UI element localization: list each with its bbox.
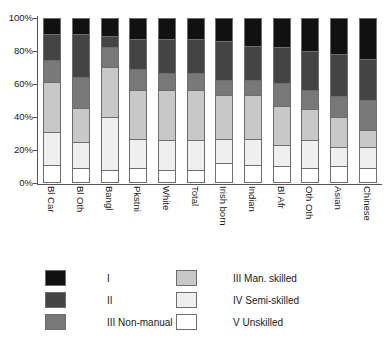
y-tick-mark bbox=[33, 18, 37, 19]
bar-segment bbox=[360, 148, 376, 169]
bar-segment bbox=[159, 40, 175, 74]
x-tick-label: Irish born bbox=[218, 186, 228, 226]
bar-segment bbox=[73, 35, 89, 77]
bar-segment bbox=[302, 52, 318, 91]
y-tick-mark bbox=[33, 150, 37, 151]
legend-swatch bbox=[45, 270, 66, 286]
bar-segment bbox=[331, 148, 347, 168]
bar-segment bbox=[188, 171, 204, 182]
x-tick-label: Bl Car bbox=[46, 186, 56, 212]
bar-segment bbox=[302, 19, 318, 52]
bar-segment bbox=[188, 74, 204, 90]
legend-item: V Unskilled bbox=[176, 314, 283, 330]
x-tick-label: Pkstni bbox=[132, 186, 142, 212]
bar-column bbox=[244, 18, 262, 183]
legend-label: IV Semi-skilled bbox=[233, 295, 299, 306]
stacked-bar bbox=[129, 18, 147, 183]
bar-segment bbox=[302, 141, 318, 169]
y-tick-label: 60% bbox=[14, 79, 33, 89]
stacked-bar bbox=[43, 18, 61, 183]
bar-segment bbox=[44, 133, 60, 166]
bar-column bbox=[129, 18, 147, 183]
bar-segment bbox=[159, 74, 175, 90]
bar-segment bbox=[130, 169, 146, 182]
x-tick-label: Oth Oth bbox=[304, 186, 314, 219]
legend-item: IV Semi-skilled bbox=[176, 292, 299, 308]
bar-segment bbox=[331, 19, 347, 55]
bar-segment bbox=[216, 19, 232, 42]
bar-segment bbox=[360, 19, 376, 60]
stacked-bar-chart: 0%20%40%60%80%100% Bl CarBl OthBanglPkst… bbox=[0, 0, 386, 338]
x-axis-labels: Bl CarBl OthBanglPkstniWhiteTotalIrish b… bbox=[38, 186, 382, 262]
bar-segment bbox=[331, 167, 347, 182]
x-tick-label: Total bbox=[190, 186, 200, 206]
legend-label: III Man. skilled bbox=[233, 273, 297, 284]
bar-column bbox=[301, 18, 319, 183]
y-tick-label: 0% bbox=[19, 178, 33, 188]
y-axis: 0%20%40%60%80%100% bbox=[0, 0, 36, 262]
bar-segment bbox=[159, 91, 175, 142]
bar-column bbox=[273, 18, 291, 183]
bar-segment bbox=[73, 109, 89, 143]
legend-swatch bbox=[176, 314, 197, 330]
y-tick-mark bbox=[33, 84, 37, 85]
stacked-bar bbox=[215, 18, 233, 183]
bar-segment bbox=[331, 118, 347, 147]
bar-segment bbox=[274, 19, 290, 48]
bar-segment bbox=[102, 118, 118, 170]
y-tick-label: 40% bbox=[14, 112, 33, 122]
bar-column bbox=[187, 18, 205, 183]
bar-segment bbox=[188, 141, 204, 170]
x-tick-label: Bl Afr bbox=[276, 186, 286, 209]
stacked-bar bbox=[187, 18, 205, 183]
legend-item: I bbox=[45, 270, 110, 286]
bar-segment bbox=[73, 78, 89, 109]
bar-segment bbox=[73, 169, 89, 182]
bar-segment bbox=[159, 141, 175, 170]
legend-label: II bbox=[107, 295, 113, 306]
stacked-bar bbox=[359, 18, 377, 183]
bars-container bbox=[38, 18, 382, 183]
bar-segment bbox=[302, 110, 318, 141]
bar-segment bbox=[102, 68, 118, 119]
bar-segment bbox=[159, 171, 175, 182]
bar-segment bbox=[44, 61, 60, 82]
x-tick-label: Bl Oth bbox=[75, 186, 85, 212]
stacked-bar bbox=[330, 18, 348, 183]
y-tick-mark bbox=[33, 183, 37, 184]
bar-segment bbox=[130, 19, 146, 40]
bar-segment bbox=[216, 140, 232, 164]
bar-segment bbox=[188, 19, 204, 40]
plot-area: 0%20%40%60%80%100% Bl CarBl OthBanglPkst… bbox=[0, 0, 386, 262]
legend-swatch bbox=[45, 314, 66, 330]
bar-segment bbox=[73, 143, 89, 169]
bar-segment bbox=[44, 83, 60, 134]
bar-segment bbox=[302, 169, 318, 182]
stacked-bar bbox=[301, 18, 319, 183]
bar-segment bbox=[360, 131, 376, 147]
bar-column bbox=[330, 18, 348, 183]
bar-segment bbox=[44, 166, 60, 182]
y-tick-label: 20% bbox=[14, 145, 33, 155]
bar-segment bbox=[188, 91, 204, 142]
bar-segment bbox=[130, 70, 146, 91]
y-tick-mark bbox=[33, 117, 37, 118]
bar-segment bbox=[274, 146, 290, 167]
legend-item: II bbox=[45, 292, 113, 308]
bar-column bbox=[359, 18, 377, 183]
bar-segment bbox=[216, 164, 232, 182]
legend-swatch bbox=[176, 292, 197, 308]
bar-segment bbox=[102, 48, 118, 68]
bar-segment bbox=[302, 91, 318, 111]
bar-segment bbox=[188, 40, 204, 74]
y-tick-label: 100% bbox=[9, 13, 33, 23]
bar-segment bbox=[274, 107, 290, 146]
bar-column bbox=[43, 18, 61, 183]
bar-segment bbox=[130, 140, 146, 169]
stacked-bar bbox=[273, 18, 291, 183]
x-tick-label: Bangl bbox=[104, 186, 114, 210]
stacked-bar bbox=[72, 18, 90, 183]
bar-segment bbox=[102, 171, 118, 182]
x-tick-label: Chinese bbox=[362, 186, 372, 221]
bar-segment bbox=[245, 140, 261, 166]
